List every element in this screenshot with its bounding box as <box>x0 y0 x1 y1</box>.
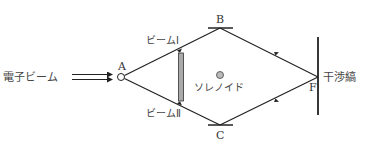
fringes-label: 干渉縞 <box>323 70 356 84</box>
solenoid-icon <box>217 72 224 79</box>
point-b-label: B <box>216 13 224 26</box>
beam-2-label: ビームⅡ <box>146 108 181 119</box>
solenoid-label: ソレノイド <box>194 82 244 93</box>
electron-beam-label: 電子ビーム <box>3 71 58 84</box>
point-c-label: C <box>216 129 224 142</box>
aharonov-bohm-diagram: 電子ビーム A ビームⅠ ビームⅡ B C ソレノイド F 干渉縞 <box>0 0 367 145</box>
point-a-label: A <box>117 60 127 73</box>
point-f-label: F <box>309 81 317 94</box>
beam-1-label: ビームⅠ <box>146 35 179 46</box>
source-point-a <box>118 74 125 81</box>
biprism <box>179 53 184 101</box>
incoming-beam-arrows <box>72 75 112 80</box>
